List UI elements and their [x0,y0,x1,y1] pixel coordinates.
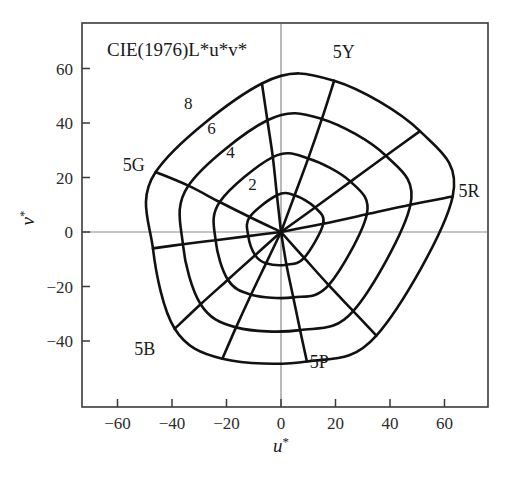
y-tick-label: 20 [56,169,73,188]
x-tick-label: −20 [213,414,240,433]
zero-axis-lines [83,24,487,406]
hue-line [281,81,334,232]
x-tick-label: 20 [327,414,344,433]
x-tick-label: 0 [277,414,286,433]
x-tick-label: −40 [159,414,186,433]
axis-ticks [82,69,445,408]
plot-frame [82,23,488,407]
x-tick-label: 60 [436,414,453,433]
chart-figure: −60−40−2002040606040200−20−40 CIE(1976)L… [0,0,511,481]
y-tick-label: −20 [46,278,73,297]
y-tick-label: −40 [46,332,73,351]
x-tick-label: −60 [104,414,131,433]
x-tick-label: 40 [382,414,399,433]
y-tick-label: 0 [65,223,74,242]
luv-polar-plot: −60−40−2002040606040200−20−40 [0,0,511,481]
y-tick-label: 60 [56,60,73,79]
constant-hue-lines [153,81,453,362]
y-tick-label: 40 [56,114,73,133]
